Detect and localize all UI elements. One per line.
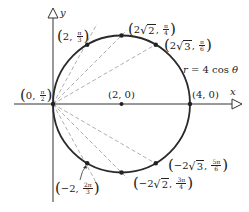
label-point-2r2-pi4: ( 2√2, π4 ) xyxy=(128,22,176,37)
point-m2r2-3pi4 xyxy=(119,170,123,174)
label-point-2r3-pi6: ( 2√3, π6 ) xyxy=(164,38,212,53)
point-2r3-pi6 xyxy=(154,43,158,47)
ray-150 xyxy=(53,104,160,166)
eq-var: θ xyxy=(232,64,238,75)
label-point-4-0: (4, 0) xyxy=(192,90,219,100)
point-4-0 xyxy=(188,102,192,106)
x-axis-arrow-icon xyxy=(232,99,242,109)
x-axis-label: x xyxy=(230,86,236,97)
point-m2r3-5pi6 xyxy=(154,161,158,165)
y-axis-arrow-icon xyxy=(48,8,58,18)
label-point-center: (2, 0) xyxy=(108,90,135,100)
label-point-m2r3-5pi6: ( −2√3, 5π6 ) xyxy=(168,158,228,173)
polar-graph-canvas xyxy=(0,0,249,212)
leader-arrow-icon xyxy=(83,165,87,169)
point-2r2-pi4 xyxy=(119,33,123,37)
label-point-m2r2-3pi4: ( −2√2, 3π4 ) xyxy=(133,176,193,191)
eq-rhs: 4 cos xyxy=(203,64,229,75)
ray-120 xyxy=(53,104,97,184)
label-point-2-pi3: ( 2, π3 ) xyxy=(57,29,89,44)
eq-sign: = xyxy=(191,64,199,75)
point-center xyxy=(120,102,124,106)
y-axis-label: y xyxy=(60,7,66,18)
point-m2-2pi3 xyxy=(85,161,89,165)
ray-30 xyxy=(53,42,160,104)
label-point-m2-2pi3: ( −2, 2π3 ) xyxy=(55,181,100,196)
equation-label: r = 4 cos θ xyxy=(183,64,238,75)
eq-lhs: r xyxy=(183,64,188,75)
label-point-origin: ( 0, π2 ) xyxy=(20,88,52,103)
